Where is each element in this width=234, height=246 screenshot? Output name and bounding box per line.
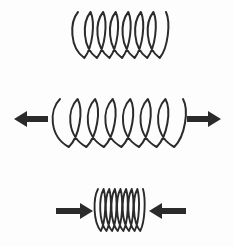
spring-diagram-canvas (0, 0, 234, 246)
spring-diagram-figure: Three coil springs shown vertically: a r… (0, 0, 234, 246)
